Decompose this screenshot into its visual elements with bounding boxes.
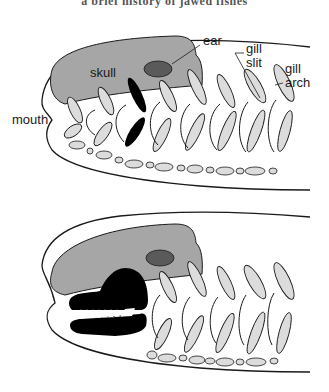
- label-mouth: mouth: [12, 112, 48, 127]
- panel-jawless: skull ear gill slit gill arch mouth: [12, 33, 310, 190]
- label-gill-slit-2: slit: [246, 55, 262, 70]
- label-gill-slit-1: gill: [246, 41, 262, 56]
- ventral-bones-2: [147, 351, 278, 366]
- label-skull: skull: [90, 65, 116, 80]
- evolution-of-jaws-diagram: skull ear gill slit gill arch mouth: [0, 0, 329, 392]
- ear: [144, 61, 172, 77]
- ventral-bones: [69, 141, 277, 175]
- label-gill-arch-1: gill: [285, 61, 301, 76]
- label-ear: ear: [203, 33, 222, 48]
- label-gill-arch-2: arch: [285, 75, 310, 90]
- ear-2: [146, 250, 174, 266]
- skull: [51, 36, 203, 104]
- lower-gill-arches: [62, 109, 295, 154]
- panel-jawed: [42, 212, 310, 372]
- lower-gill-arches-2: [151, 311, 294, 356]
